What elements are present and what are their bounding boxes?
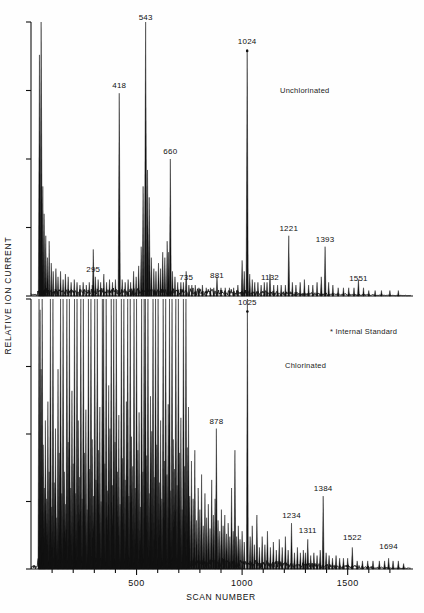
unchlorinated-peak [241, 260, 243, 296]
chlorinated-peak [224, 515, 226, 569]
unchlorinated-peak [233, 288, 235, 296]
chlorinated-peak [243, 542, 245, 569]
unchlorinated-peak [285, 285, 287, 296]
unchlorinated-peak [112, 282, 114, 296]
chlorinated-peak [237, 526, 239, 569]
panel-label-unchlorinated: Unchlorinated [280, 86, 330, 95]
chromatogram-canvas: 50010001500SCAN NUMBERRELATIVE ION CURRE… [0, 0, 424, 613]
peak-label-1522: 1522 [343, 533, 362, 542]
chlorinated-peak [367, 561, 369, 569]
peak-label-1694: 1694 [379, 542, 398, 551]
chlorinated-peak [384, 561, 386, 569]
chlorinated-peak [392, 561, 394, 569]
unchlorinated-peak [73, 280, 75, 296]
unchlorinated-peak [316, 282, 318, 296]
unchlorinated-peak [254, 282, 256, 296]
unchlorinated-peak [106, 282, 108, 296]
unchlorinated-peak [109, 280, 111, 296]
unchlorinated-peak [299, 282, 301, 296]
peak-label-660: 660 [163, 147, 177, 156]
unchlorinated-peak [324, 247, 326, 296]
chlorinated-peak [246, 299, 248, 569]
unchlorinated-peak [312, 285, 314, 296]
unchlorinated-peak [363, 288, 365, 296]
unchlorinated-peak [251, 280, 253, 296]
unchlorinated-peak [45, 236, 47, 296]
chlorinated-peak [253, 545, 255, 569]
y-axis-title: RELATIVE ION CURRENT [3, 237, 13, 355]
chlorinated-peak [231, 488, 233, 569]
unchlorinated-peak [332, 285, 334, 296]
unchlorinated-peak [337, 288, 339, 296]
chlorinated-peak [264, 545, 266, 569]
unchlorinated-peak [249, 274, 251, 296]
chlorinated-peak [275, 550, 277, 569]
chlorinated-peak [266, 531, 268, 569]
chlorinated-peak [304, 553, 306, 569]
chlorinated-peak [272, 542, 274, 569]
chlorinated-peak [342, 558, 344, 569]
chlorinated-peak [197, 488, 199, 569]
x-axis-tick-label: 1500 [337, 578, 359, 588]
x-axis-title: SCAN NUMBER [186, 592, 255, 602]
unchlorinated-peak [62, 280, 64, 296]
unchlorinated-peak [205, 288, 207, 296]
peak-label-418: 418 [112, 81, 126, 90]
chlorinated-peak [316, 556, 318, 570]
x-axis-tick-label: 1000 [231, 578, 253, 588]
chromatogram-svg: 50010001500SCAN NUMBERRELATIVE ION CURRE… [0, 0, 424, 613]
unchlorinated-peak [82, 282, 84, 296]
unchlorinated-peak [95, 277, 97, 296]
unchlorinated-peak [48, 241, 50, 296]
chlorinated-peak [194, 450, 196, 569]
unchlorinated-peak [118, 93, 120, 296]
unchlorinated-peak [47, 258, 49, 296]
chlorinated-peak [328, 556, 330, 570]
peak-label-1132: 1132 [261, 273, 279, 282]
unchlorinated-peak [320, 277, 322, 296]
unchlorinated-peak [150, 258, 152, 296]
unchlorinated-peak [88, 282, 90, 296]
chlorinated-peak [269, 547, 271, 569]
unchlorinated-peak [100, 282, 102, 296]
unchlorinated-peak [202, 285, 204, 296]
unchlorinated-peak [121, 280, 123, 296]
unchlorinated-peak [266, 282, 268, 296]
unchlorinated-peak [127, 280, 129, 296]
unchlorinated-peak [43, 214, 45, 296]
chlorinated-peak [204, 493, 206, 569]
unchlorinated-peak [65, 274, 67, 296]
unchlorinated-peak [52, 271, 54, 296]
chlorinated-peak [201, 475, 203, 570]
unchlorinated-peak [188, 285, 190, 296]
chlorinated-peak [251, 526, 253, 569]
unchlorinated-peak [160, 269, 162, 296]
peak-label-1311: 1311 [299, 526, 317, 535]
unchlorinated-peak [398, 291, 400, 296]
chlorinated-peak [241, 531, 243, 569]
unchlorinated-peak [381, 291, 383, 296]
chlorinated-peak [313, 553, 315, 569]
unchlorinated-peak [353, 288, 355, 296]
unchlorinated-peak [55, 269, 57, 296]
unchlorinated-peak [103, 274, 105, 296]
unchlorinated-peak [237, 285, 239, 296]
unchlorinated-peak [76, 282, 78, 296]
chlorinated-peak [256, 515, 258, 569]
chlorinated-peak [284, 537, 286, 569]
chlorinated-peak [278, 539, 280, 569]
unchlorinated-peak [213, 288, 215, 296]
chlorinated-peak [319, 550, 321, 569]
chlorinated-peak [211, 480, 213, 569]
chlorinated-peak [190, 461, 192, 569]
unchlorinated-peak [263, 282, 265, 296]
unchlorinated-peak [142, 186, 144, 296]
unchlorinated-peak [162, 252, 164, 296]
peak-label-1221: 1221 [279, 224, 298, 233]
unchlorinated-peak [79, 285, 81, 296]
unchlorinated-peak [220, 288, 222, 296]
unchlorinated-peak [328, 282, 330, 296]
peak-label-295: 295 [86, 265, 100, 274]
chlorinated-peak [322, 496, 324, 569]
chlorinated-peak [215, 429, 217, 569]
